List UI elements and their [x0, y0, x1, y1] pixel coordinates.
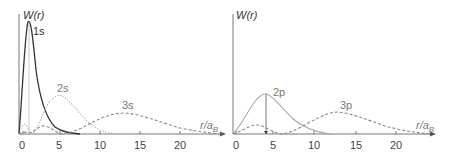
left-tick-15: 15	[134, 139, 146, 151]
label-1s: 1s	[33, 25, 45, 37]
left-tick-5: 5	[56, 139, 62, 151]
right-peak-marker-arrow-icon	[264, 131, 268, 134]
right-tick-10: 10	[308, 139, 320, 151]
curve-3p	[233, 112, 432, 134]
left-panel: W(r) 1s 2s 3s r/aB 0 5 10 15 20	[19, 9, 226, 151]
right-y-axis-label: W(r)	[236, 9, 258, 21]
curve-1s	[19, 22, 80, 134]
left-y-axis-label: W(r)	[23, 9, 45, 21]
left-x-ticks	[23, 131, 180, 134]
right-tick-20: 20	[390, 139, 402, 151]
right-panel: W(r) 2p 3p r/aB 0 5 10 15 20	[233, 9, 436, 151]
right-tick-0: 0	[233, 139, 239, 151]
radial-distribution-figure: W(r) 1s 2s 3s r/aB 0 5 10 15 20	[0, 0, 452, 155]
label-2p: 2p	[273, 86, 285, 98]
right-tick-15: 15	[350, 139, 362, 151]
left-x-axis-label: r/aB	[200, 119, 219, 134]
label-2s: 2s	[57, 82, 69, 94]
left-tick-10: 10	[94, 139, 106, 151]
label-3s: 3s	[122, 99, 134, 111]
right-x-axis-label: r/aB	[416, 119, 435, 134]
left-tick-20: 20	[174, 139, 186, 151]
curve-3s	[19, 113, 222, 134]
chart-svg: W(r) 1s 2s 3s r/aB 0 5 10 15 20	[0, 0, 452, 155]
curve-2s	[19, 95, 115, 134]
right-tick-5: 5	[270, 139, 276, 151]
left-tick-0: 0	[19, 139, 25, 151]
label-3p: 3p	[340, 99, 352, 111]
